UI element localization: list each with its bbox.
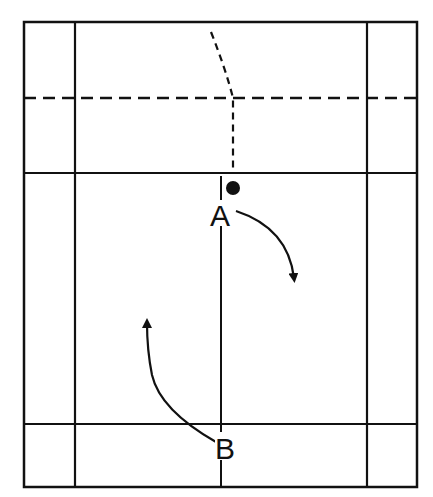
player-b-label: B — [215, 432, 235, 465]
shuttle-path-dashed — [211, 32, 233, 173]
player-a-label: A — [210, 199, 230, 232]
player-a-movement-arrow — [236, 211, 294, 278]
shuttle-dot — [226, 181, 240, 195]
court-svg: A B — [0, 0, 433, 497]
badminton-court-diagram: A B — [0, 0, 433, 497]
